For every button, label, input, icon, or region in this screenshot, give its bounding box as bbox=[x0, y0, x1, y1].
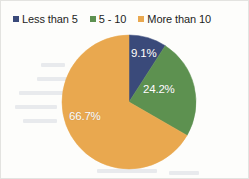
chart-legend: Less than 5 5 - 10 More than 10 bbox=[13, 10, 241, 27]
pie-slice-label-more-than-10: 66.7% bbox=[69, 110, 101, 122]
legend-label-5-10: 5 - 10 bbox=[99, 13, 127, 25]
legend-item-less-than-5[interactable]: Less than 5 bbox=[13, 13, 78, 25]
square-marker-icon bbox=[138, 16, 144, 22]
legend-label-more-than-10: More than 10 bbox=[147, 13, 211, 25]
pie-slice-label-less-than-5: 9.1% bbox=[131, 47, 156, 59]
square-marker-icon bbox=[13, 16, 19, 22]
legend-item-more-than-10[interactable]: More than 10 bbox=[138, 13, 211, 25]
legend-label-less-than-5: Less than 5 bbox=[22, 13, 78, 25]
pie-svg bbox=[61, 34, 197, 170]
legend-item-5-10[interactable]: 5 - 10 bbox=[90, 13, 127, 25]
pie-chart-figure: Less than 5 5 - 10 More than 10 9.1% 24.… bbox=[0, 0, 249, 179]
square-marker-icon bbox=[90, 16, 96, 22]
pie-plot-area: 9.1% 24.2% 66.7% bbox=[61, 34, 197, 170]
pie-slice-label-5-10: 24.2% bbox=[143, 83, 175, 95]
